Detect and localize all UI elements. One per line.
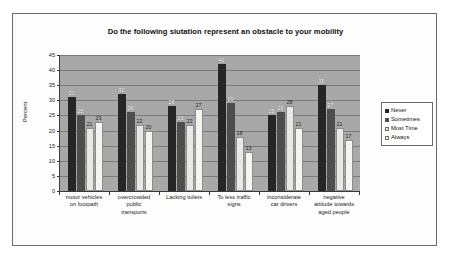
bar-value-label: 22 — [187, 118, 193, 124]
bar-slot: 28 — [286, 55, 294, 191]
y-tick-mark — [57, 100, 60, 101]
bar[interactable] — [236, 137, 244, 191]
bar-value-label: 25 — [78, 108, 84, 114]
x-category-label: motor vehicleson footpath — [59, 194, 109, 209]
screenshot-root: Do the following siutation represent an … — [0, 0, 451, 262]
y-axis-tick-labels: 051015202530354045 — [37, 55, 55, 191]
legend-swatch-icon — [385, 109, 389, 113]
y-axis-title: Percent — [22, 88, 28, 136]
bar-value-label: 21 — [296, 121, 302, 127]
bar-slot: 42 — [218, 55, 226, 191]
bar-slot: 21 — [336, 55, 344, 191]
chart-legend: NeverSometimesMost TimeAlways — [381, 102, 433, 146]
x-category-label: To less trafficsigns — [209, 194, 259, 209]
bar[interactable] — [227, 103, 235, 191]
x-tick-mark — [59, 192, 60, 195]
bar-slot: 26 — [127, 55, 135, 191]
y-tick-mark — [57, 161, 60, 162]
x-category-label: inconsideratecar drivers — [259, 194, 309, 209]
bar[interactable] — [318, 85, 326, 191]
bar[interactable] — [177, 122, 185, 192]
bar-value-label: 29 — [228, 96, 234, 102]
bar-value-label: 35 — [319, 78, 325, 84]
bar-value-label: 27 — [328, 102, 334, 108]
bar-group: 28232227 — [160, 55, 210, 191]
y-tick-label: 0 — [39, 188, 55, 194]
bar[interactable] — [245, 152, 253, 191]
bar[interactable] — [186, 125, 194, 191]
bar-value-label: 23 — [178, 115, 184, 121]
bar-slot: 21 — [86, 55, 94, 191]
bar[interactable] — [127, 112, 135, 191]
y-tick-label: 20 — [39, 128, 55, 134]
x-tick-mark — [309, 192, 310, 195]
bar[interactable] — [195, 109, 203, 191]
bar[interactable] — [68, 97, 76, 191]
bar-value-label: 13 — [246, 145, 252, 151]
y-tick-label: 25 — [39, 112, 55, 118]
bar-value-label: 32 — [119, 87, 125, 93]
bar-slot: 27 — [195, 55, 203, 191]
bar-group: 42291813 — [210, 55, 260, 191]
bar-slot: 17 — [345, 55, 353, 191]
x-category-label: Lacking toilets — [159, 194, 209, 201]
y-tick-label: 40 — [39, 67, 55, 73]
bar-slot: 31 — [68, 55, 76, 191]
x-tick-mark — [209, 192, 210, 195]
bar-value-label: 27 — [196, 102, 202, 108]
bar-slot: 18 — [236, 55, 244, 191]
bar-slot: 20 — [145, 55, 153, 191]
bar[interactable] — [136, 125, 144, 191]
bar-value-label: 23 — [96, 115, 102, 121]
y-tick-label: 10 — [39, 158, 55, 164]
y-tick-mark — [57, 70, 60, 71]
legend-item-sometimes[interactable]: Sometimes — [385, 115, 429, 124]
bar-slot: 25 — [268, 55, 276, 191]
y-tick-mark — [57, 115, 60, 116]
bar[interactable] — [95, 122, 103, 192]
bar[interactable] — [86, 128, 94, 191]
bar-group: 31252123 — [60, 55, 110, 191]
y-tick-label: 5 — [39, 173, 55, 179]
legend-swatch-icon — [385, 118, 389, 122]
legend-label: Never — [391, 106, 406, 115]
legend-item-most-time[interactable]: Most Time — [385, 124, 429, 133]
bar-value-label: 17 — [346, 133, 352, 139]
bar[interactable] — [168, 106, 176, 191]
legend-label: Sometimes — [391, 115, 420, 124]
bar-slot: 29 — [227, 55, 235, 191]
bar[interactable] — [145, 131, 153, 191]
bar-value-label: 25 — [269, 108, 275, 114]
legend-swatch-icon — [385, 127, 389, 131]
bar-slot: 32 — [118, 55, 126, 191]
x-tick-mark — [109, 192, 110, 195]
bar-value-label: 26 — [278, 105, 284, 111]
bar[interactable] — [345, 140, 353, 191]
y-tick-mark — [57, 176, 60, 177]
bar[interactable] — [118, 94, 126, 191]
bar[interactable] — [268, 115, 276, 191]
bar[interactable] — [218, 64, 226, 191]
bar-group: 25262821 — [260, 55, 310, 191]
bar-slot: 22 — [136, 55, 144, 191]
bar-value-label: 20 — [146, 124, 152, 130]
chart-title: Do the following siutation represent an … — [13, 27, 438, 36]
x-tick-mark — [259, 192, 260, 195]
x-axis-category-labels: motor vehicleson footpathovercrowdedpubl… — [59, 194, 359, 238]
y-tick-mark — [57, 55, 60, 56]
bar[interactable] — [295, 128, 303, 191]
legend-item-never[interactable]: Never — [385, 106, 429, 115]
legend-item-always[interactable]: Always — [385, 133, 429, 142]
bar[interactable] — [327, 109, 335, 191]
bar-slot: 13 — [245, 55, 253, 191]
bar-slot: 26 — [277, 55, 285, 191]
bar[interactable] — [286, 106, 294, 191]
bar-slot: 21 — [295, 55, 303, 191]
x-tick-mark — [359, 192, 360, 195]
bar[interactable] — [77, 115, 85, 191]
bar[interactable] — [277, 112, 285, 191]
bar[interactable] — [336, 128, 344, 191]
bar-value-label: 28 — [287, 99, 293, 105]
bar-value-label: 31 — [69, 90, 75, 96]
bar-slot: 35 — [318, 55, 326, 191]
